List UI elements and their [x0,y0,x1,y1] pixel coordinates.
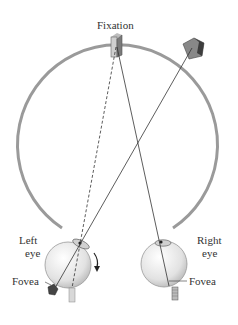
rotation-arrow-icon [94,253,100,272]
left-eye-label-line1: Left [19,234,37,246]
fixation-label: Fixation [97,19,134,31]
right-eye-label-line1: Right [197,234,221,246]
fixation-cube-icon [111,33,122,57]
peripheral-pentagon-icon [183,38,204,59]
fovea-left-leader [45,282,51,285]
fovea-right-label: Fovea [189,275,216,287]
left-eye-fixation-dashed-line [72,47,116,288]
left-eye [45,237,91,288]
left-eye-label-line2: eye [25,247,40,259]
right-eye-lens [155,240,171,246]
right-retina-cube-image-icon [172,287,178,300]
left-retina-cube-image-icon [69,288,75,302]
right-eye-label-line2: eye [202,247,217,259]
fovea-left-label: Fovea [12,275,39,287]
horopter-arc [17,45,217,228]
